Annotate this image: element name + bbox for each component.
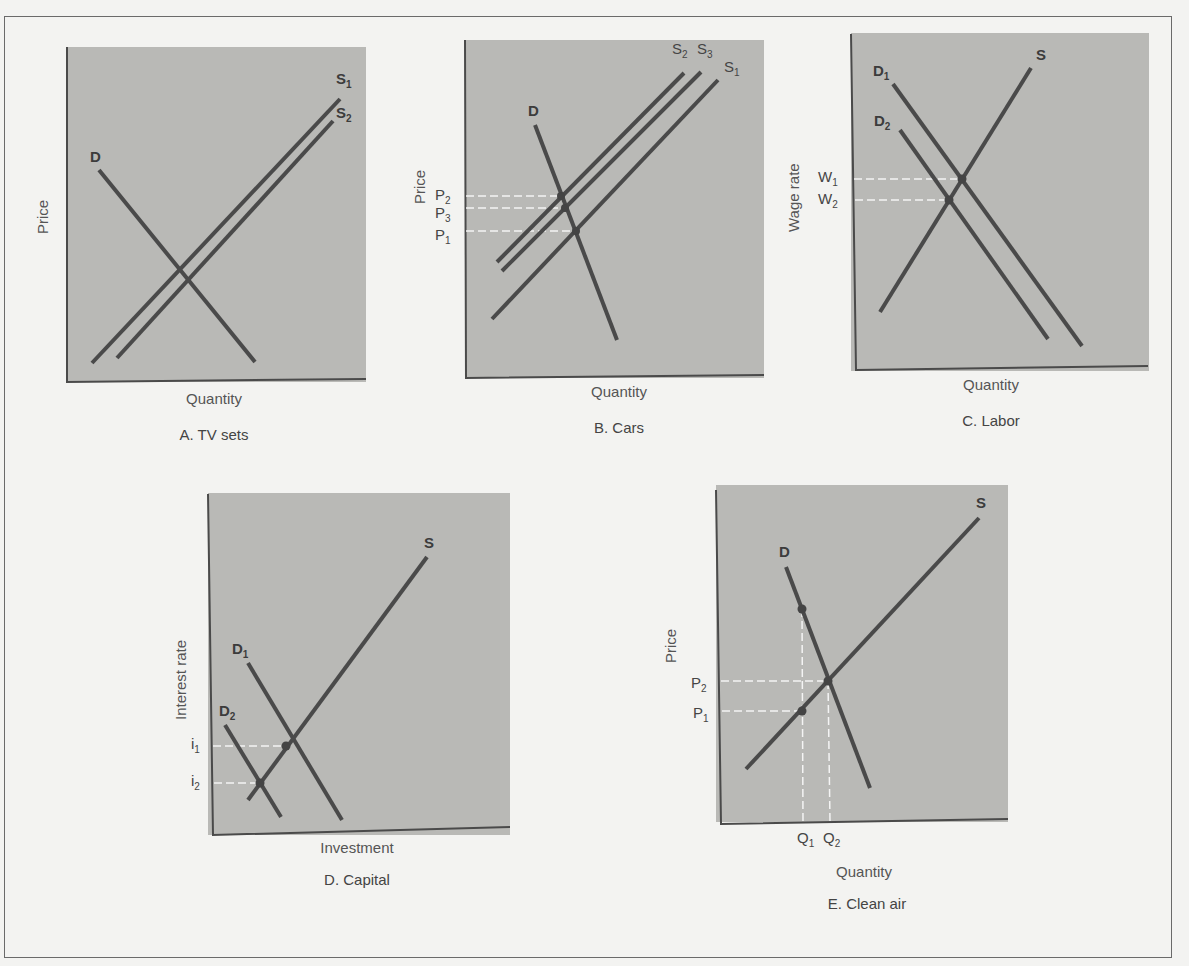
plot-area bbox=[851, 33, 1149, 371]
price-label-p1: P1 bbox=[693, 704, 709, 724]
equilibrium-point-1 bbox=[958, 175, 967, 184]
curve-label-d: D bbox=[779, 543, 790, 560]
x-axis-label: Quantity bbox=[591, 383, 647, 400]
quantity-label-q1: Q1 bbox=[797, 829, 815, 849]
price-label-p1: P1 bbox=[435, 226, 451, 246]
plot-area bbox=[465, 40, 764, 378]
wage-label-w1: W1 bbox=[818, 168, 838, 188]
equilibrium-point-2 bbox=[557, 192, 565, 200]
rate-label-i1: i1 bbox=[191, 735, 200, 755]
x-axis-label: Quantity bbox=[836, 863, 892, 880]
x-axis-label: Investment bbox=[320, 839, 394, 856]
curve-label-d: D bbox=[528, 102, 539, 119]
panel-c-labor: D1 D2 S W1 W2 Wage rate Quantity C. Labo… bbox=[785, 33, 1149, 429]
equilibrium-point bbox=[824, 677, 833, 686]
plot-area bbox=[66, 47, 366, 382]
curve-label-s: S bbox=[424, 534, 434, 551]
x-axis-label: Quantity bbox=[186, 390, 242, 407]
panel-b-cars: D S2 S3 S1 P2 P3 P1 Price Quantity B. Ca… bbox=[411, 40, 764, 436]
panel-caption: C. Labor bbox=[962, 412, 1020, 429]
panel-caption: A. TV sets bbox=[180, 426, 249, 443]
panel-a-tv-sets: D S1 S2 Price Quantity A. TV sets bbox=[34, 47, 366, 443]
wage-label-w2: W2 bbox=[818, 190, 838, 210]
x-axis-label: Quantity bbox=[963, 376, 1019, 393]
y-axis-label: Wage rate bbox=[785, 163, 802, 232]
curve-label-d: D bbox=[90, 148, 101, 165]
equilibrium-point-1 bbox=[572, 227, 580, 235]
equilibrium-point-2 bbox=[256, 779, 265, 788]
quantity-label-q2: Q2 bbox=[823, 829, 841, 849]
y-axis-label: Interest rate bbox=[172, 640, 189, 720]
price-label-p2: P2 bbox=[435, 186, 451, 206]
panel-caption: E. Clean air bbox=[828, 895, 906, 912]
curve-label-s: S bbox=[1036, 46, 1046, 63]
equilibrium-point-1 bbox=[282, 742, 291, 751]
y-axis-label: Price bbox=[411, 170, 428, 204]
supply-demand-figure: D S1 S2 Price Quantity A. TV sets D S2 S… bbox=[0, 0, 1189, 966]
rate-label-i2: i2 bbox=[191, 772, 200, 792]
panel-caption: B. Cars bbox=[594, 419, 644, 436]
y-axis-label: Price bbox=[662, 629, 679, 663]
price-label-p2: P2 bbox=[691, 674, 707, 694]
panel-e-clean-air: D S P2 P1 Q1 Q2 Price Quantity E. Clean … bbox=[662, 485, 1008, 912]
curve-label-s: S bbox=[976, 494, 986, 511]
panel-d-capital: S D1 D2 i1 i2 Interest rate Investment D… bbox=[172, 493, 510, 888]
equilibrium-point-3 bbox=[561, 204, 569, 212]
point-on-demand-q1 bbox=[798, 605, 807, 614]
price-label-p3: P3 bbox=[435, 204, 451, 224]
panel-caption: D. Capital bbox=[324, 871, 390, 888]
y-axis-label: Price bbox=[34, 200, 51, 234]
point-on-supply-q1 bbox=[798, 707, 807, 716]
equilibrium-point-2 bbox=[945, 196, 954, 205]
